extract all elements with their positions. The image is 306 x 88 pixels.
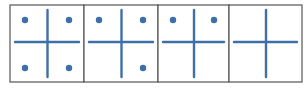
panel-3 (158, 5, 229, 82)
dot-top-right (66, 17, 72, 23)
panel-4 (229, 5, 302, 82)
dot-top-left (96, 17, 102, 23)
panel-2 (84, 5, 158, 82)
dot-bottom-right (66, 65, 72, 71)
dot-bottom-left (22, 65, 28, 71)
dot-top-left (22, 17, 28, 23)
dot-sequence-diagram (0, 0, 306, 88)
dot-bottom-right (140, 65, 146, 71)
dot-top-left (170, 17, 176, 23)
dot-top-right (140, 17, 146, 23)
panel-1 (10, 5, 84, 82)
dot-top-right (211, 17, 217, 23)
